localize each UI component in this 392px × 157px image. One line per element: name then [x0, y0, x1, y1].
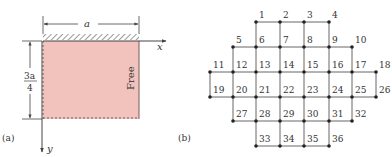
node-label: 33	[259, 134, 271, 144]
node-label: 31	[332, 109, 343, 119]
panel-a: x y a 3a 4 Free (a)	[2, 16, 166, 154]
grid-node	[302, 95, 306, 99]
panel-b-label: (b)	[178, 133, 191, 143]
node-label: 14	[283, 60, 295, 70]
node-label: 2	[283, 10, 289, 20]
node-label: 10	[355, 35, 367, 45]
node-label: 12	[236, 60, 247, 70]
x-axis-label: x	[157, 41, 163, 52]
grid-node	[327, 20, 331, 24]
node-label: 1	[259, 10, 265, 20]
node-label: 29	[283, 109, 295, 119]
node-label: 6	[259, 35, 265, 45]
grid-node	[254, 95, 258, 99]
panel-b: (b) 123456789101112131415161718192021222…	[178, 10, 391, 148]
grid-node	[231, 70, 235, 74]
height-label-numerator: 3a	[24, 71, 36, 81]
clamped-edge-hatch	[43, 34, 139, 40]
node-label: 28	[259, 109, 271, 119]
grid-node	[254, 144, 258, 148]
grid-node	[278, 70, 282, 74]
grid-node	[278, 20, 282, 24]
grid-node	[254, 70, 258, 74]
grid-node	[231, 45, 235, 49]
grid-node	[327, 95, 331, 99]
grid-node	[302, 119, 306, 123]
grid-node	[254, 20, 258, 24]
node-label: 4	[332, 10, 338, 20]
grid-node	[278, 45, 282, 49]
node-label: 24	[332, 85, 344, 95]
free-edge-label: Free	[125, 66, 136, 90]
node-label: 13	[259, 60, 271, 70]
grid-node	[350, 70, 354, 74]
grid-node	[327, 45, 331, 49]
node-label: 21	[259, 85, 270, 95]
grid-node	[374, 70, 378, 74]
grid-node	[327, 70, 331, 74]
node-label: 22	[283, 85, 294, 95]
height-label-denominator: 4	[27, 83, 33, 93]
grid-node	[278, 119, 282, 123]
panel-a-label: (a)	[2, 133, 14, 143]
node-label: 11	[213, 60, 224, 70]
node-label: 32	[355, 109, 366, 119]
node-label: 7	[283, 35, 289, 45]
node-label: 18	[379, 60, 391, 70]
node-label: 20	[236, 85, 248, 95]
grid-node	[302, 20, 306, 24]
grid-node	[231, 119, 235, 123]
grid-node	[327, 119, 331, 123]
grid-node	[302, 70, 306, 74]
node-label: 27	[236, 109, 248, 119]
node-label: 8	[307, 35, 313, 45]
grid-nodes: 1234567891011121314151617181920212223242…	[208, 10, 391, 148]
grid-node	[327, 144, 331, 148]
y-axis-label: y	[46, 143, 53, 154]
grid-node	[254, 45, 258, 49]
grid-edges	[210, 22, 376, 146]
grid-node	[254, 119, 258, 123]
node-label: 23	[307, 85, 319, 95]
node-label: 19	[213, 85, 225, 95]
grid-node	[302, 45, 306, 49]
grid-node	[350, 95, 354, 99]
node-label: 15	[307, 60, 319, 70]
node-label: 17	[355, 60, 367, 70]
grid-node	[350, 45, 354, 49]
node-label: 25	[355, 85, 367, 95]
grid-node	[278, 144, 282, 148]
node-label: 9	[332, 35, 338, 45]
grid-node	[350, 119, 354, 123]
node-label: 35	[307, 134, 319, 144]
node-label: 34	[283, 134, 295, 144]
grid-node	[208, 95, 212, 99]
grid-node	[208, 70, 212, 74]
node-label: 16	[332, 60, 344, 70]
grid-node	[302, 144, 306, 148]
grid-node	[231, 95, 235, 99]
node-label: 26	[379, 85, 391, 95]
node-label: 30	[307, 109, 319, 119]
node-label: 5	[236, 35, 242, 45]
grid-node	[278, 95, 282, 99]
node-label: 36	[332, 134, 344, 144]
grid-node	[374, 95, 378, 99]
figure-canvas: x y a 3a 4 Free (a) (b) 1234567891011121…	[0, 0, 392, 157]
node-label: 3	[307, 10, 313, 20]
width-label: a	[84, 18, 90, 29]
